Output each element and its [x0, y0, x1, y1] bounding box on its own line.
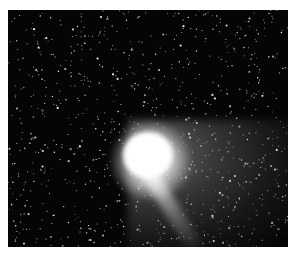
comet-nucleus	[123, 132, 173, 178]
comet-photo	[8, 10, 288, 247]
